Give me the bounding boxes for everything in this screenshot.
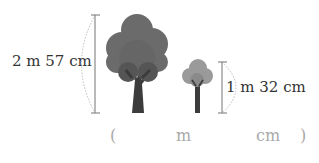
open-paren: ( — [110, 126, 116, 145]
close-paren: ) — [300, 126, 306, 145]
tall-tree-height-label: 2 m 57 cm — [12, 52, 92, 70]
centimeter-unit: cm — [256, 126, 280, 145]
meter-unit: m — [176, 126, 191, 145]
short-tree-icon — [182, 59, 213, 113]
short-tree-height-label: 1 m 32 cm — [226, 78, 306, 96]
tall-tree-icon — [106, 14, 168, 113]
